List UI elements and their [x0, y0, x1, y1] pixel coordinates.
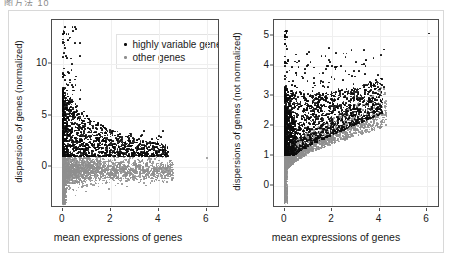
data-point [132, 174, 134, 176]
data-point [354, 89, 356, 91]
data-point [354, 76, 356, 78]
data-point [73, 189, 75, 191]
y-axis-label-right: dispersions of genes (not normalized) [229, 11, 243, 211]
data-point [64, 75, 66, 77]
x-tick-mark [426, 208, 427, 211]
data-point [125, 176, 127, 178]
data-point [370, 83, 372, 85]
data-point [62, 169, 64, 171]
data-point [350, 98, 352, 100]
data-point [127, 178, 129, 180]
data-point [98, 186, 100, 188]
data-point [147, 152, 149, 154]
data-point [108, 156, 110, 158]
data-point [298, 60, 300, 62]
data-point [152, 164, 154, 166]
gridline-horizontal [274, 36, 438, 37]
data-point [79, 98, 81, 100]
data-point [167, 151, 169, 153]
data-point [284, 65, 286, 67]
data-point [151, 155, 153, 157]
data-point [75, 106, 77, 108]
x-axis-label-left: mean expressions of genes [9, 231, 227, 243]
data-point [129, 140, 131, 142]
data-point [326, 130, 328, 132]
data-point [327, 132, 329, 134]
data-point [140, 135, 142, 137]
data-point [69, 100, 71, 102]
data-point [89, 123, 91, 125]
data-point [140, 180, 142, 182]
data-point [117, 157, 119, 159]
data-point [95, 180, 97, 182]
data-point [294, 121, 296, 123]
data-point [78, 168, 80, 170]
data-point [334, 78, 336, 80]
data-point [294, 125, 296, 127]
data-point [294, 95, 296, 97]
data-point [346, 138, 348, 140]
data-point [284, 35, 286, 37]
data-point [206, 157, 208, 159]
data-point [297, 108, 299, 110]
data-point [152, 146, 154, 148]
data-point [386, 115, 388, 117]
data-point [358, 110, 360, 112]
data-point [284, 193, 286, 195]
data-point [363, 120, 365, 122]
data-point [65, 177, 67, 179]
data-point [115, 185, 117, 187]
data-point [156, 175, 158, 177]
data-point [76, 143, 78, 145]
data-point [95, 178, 97, 180]
data-point [79, 55, 81, 57]
data-point [312, 102, 314, 104]
data-point [320, 109, 322, 111]
data-point [91, 155, 93, 157]
y-tick-label: 3 [263, 90, 269, 100]
data-point [346, 106, 348, 108]
data-point [332, 103, 334, 105]
data-point [117, 154, 119, 156]
data-point [305, 119, 307, 121]
data-point [65, 55, 67, 57]
data-point [335, 142, 337, 144]
data-point [169, 166, 171, 168]
data-point [284, 169, 286, 171]
x-tick-mark [379, 208, 380, 211]
data-point [84, 125, 86, 127]
data-point [329, 135, 331, 137]
data-point [320, 127, 322, 129]
data-point [117, 131, 119, 133]
data-point [75, 28, 77, 30]
data-point [284, 140, 286, 142]
data-point [350, 101, 352, 103]
data-point [371, 122, 373, 124]
data-point [88, 118, 90, 120]
data-point [307, 100, 309, 102]
data-point [306, 109, 308, 111]
data-point [386, 103, 388, 105]
data-point [62, 87, 64, 89]
data-point [316, 145, 318, 147]
data-point [327, 86, 329, 88]
data-point [91, 150, 93, 152]
data-point [304, 93, 306, 95]
data-point [101, 144, 103, 146]
data-point [342, 138, 344, 140]
data-point [120, 139, 122, 141]
data-point [90, 183, 92, 185]
data-point [132, 176, 134, 178]
data-point [81, 164, 83, 166]
data-point [364, 111, 366, 113]
data-point [329, 120, 331, 122]
data-point [139, 176, 141, 178]
data-point [374, 129, 376, 131]
clipped-header-text: 图方法 10 [4, 0, 64, 6]
data-point [359, 118, 361, 120]
data-point [307, 104, 309, 106]
y-tick-label: 5 [41, 110, 47, 120]
data-point [141, 155, 143, 157]
data-point [287, 172, 289, 174]
data-point [94, 162, 96, 164]
